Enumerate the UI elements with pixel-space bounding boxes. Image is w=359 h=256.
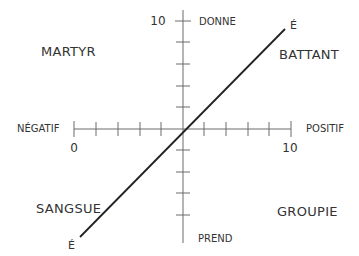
- diagonal-bottom-end-label: É: [68, 239, 75, 252]
- vertical-max-label: 10: [150, 14, 165, 28]
- quadrant-diagram: 10 DONNE PREND NÉGATIF POSITIF 0 10 MART…: [0, 0, 359, 256]
- horizontal-left-label: NÉGATIF: [17, 122, 60, 134]
- horizontal-max-label: 10: [282, 141, 297, 155]
- quadrant-bottom-left-label: SANGSUE: [36, 201, 101, 216]
- diagonal-top-end-label: É: [290, 19, 297, 32]
- vertical-bottom-label: PREND: [198, 233, 233, 244]
- horizontal-right-label: POSITIF: [306, 123, 344, 134]
- horizontal-min-label: 0: [70, 141, 78, 155]
- vertical-top-label: DONNE: [199, 16, 236, 27]
- quadrant-top-right-label: BATTANT: [279, 47, 339, 62]
- quadrant-top-left-label: MARTYR: [41, 44, 96, 59]
- quadrant-bottom-right-label: GROUPIE: [277, 204, 338, 219]
